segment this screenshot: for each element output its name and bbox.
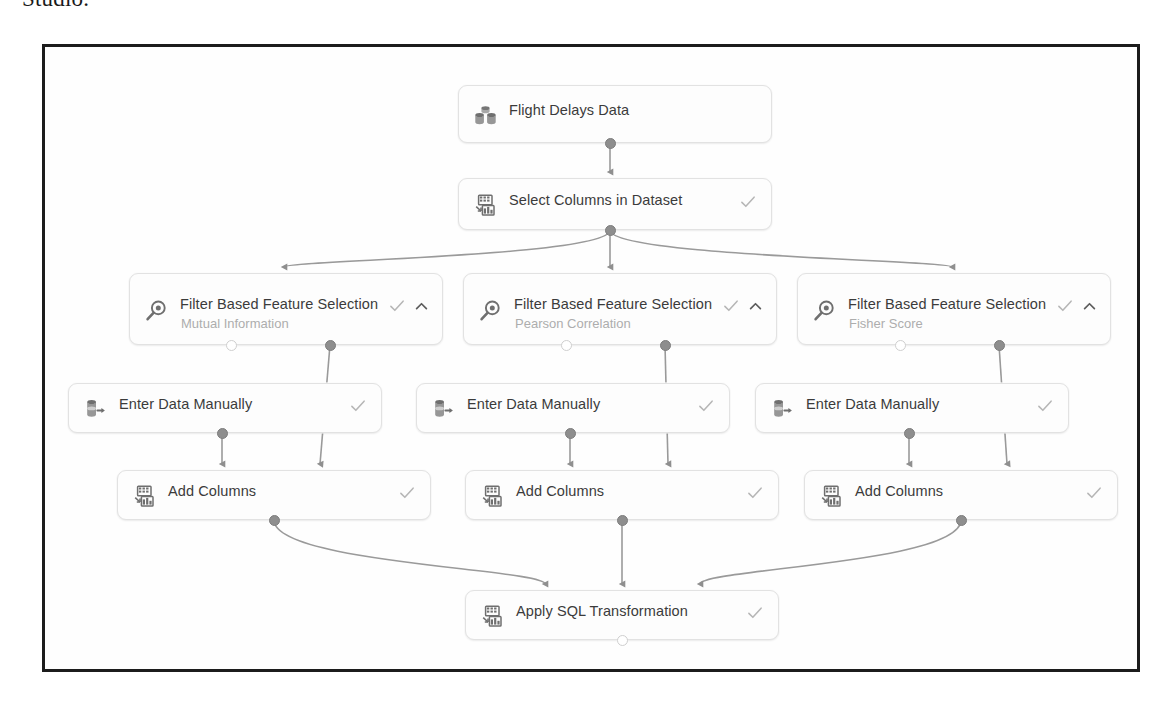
node-text-group: Add Columns	[516, 482, 738, 500]
check-icon	[746, 604, 764, 622]
port-filter-3-output-right[interactable]	[994, 340, 1005, 351]
columns-grid-icon	[819, 483, 845, 509]
check-icon	[722, 297, 740, 315]
node-enter-data-manually-3[interactable]: Enter Data Manually	[755, 383, 1069, 433]
node-content: Filter Based Feature SelectionMutual Inf…	[130, 286, 442, 332]
node-text-group: Filter Based Feature SelectionMutual Inf…	[180, 295, 380, 332]
magnifier-filter-icon	[478, 298, 504, 324]
node-text-group: Add Columns	[855, 482, 1077, 500]
node-title: Add Columns	[516, 482, 738, 500]
node-content: Enter Data Manually	[69, 395, 381, 422]
check-icon	[739, 193, 757, 211]
caption-text: Studio.	[22, 0, 89, 12]
node-content: Select Columns in Dataset	[459, 191, 771, 218]
check-icon	[1085, 484, 1103, 502]
node-title: Filter Based Feature Selection	[514, 295, 714, 313]
node-text-group: Filter Based Feature SelectionPearson Co…	[514, 295, 714, 332]
node-status-group	[398, 482, 416, 502]
node-text-group: Enter Data Manually	[119, 395, 341, 413]
chevron-up-icon[interactable]	[749, 300, 762, 313]
port-filter-2-output-left[interactable]	[561, 340, 572, 351]
node-status-group	[722, 295, 762, 315]
port-add-columns-3-output[interactable]	[956, 515, 967, 526]
node-title: Enter Data Manually	[119, 395, 341, 413]
port-enter-data-2-output[interactable]	[565, 428, 576, 439]
data-entry-cylinder-arrow-icon	[770, 396, 796, 422]
node-content: Enter Data Manually	[417, 395, 729, 422]
columns-grid-icon	[480, 483, 506, 509]
port-add-columns-2-output[interactable]	[617, 515, 628, 526]
check-icon	[388, 297, 406, 315]
port-filter-1-output-left[interactable]	[226, 340, 237, 351]
chevron-up-icon[interactable]	[1083, 300, 1096, 313]
node-text-group: Enter Data Manually	[467, 395, 689, 413]
node-flight-delays-data[interactable]: Flight Delays Data	[458, 85, 772, 143]
columns-grid-icon	[480, 603, 506, 629]
data-entry-cylinder-arrow-icon	[431, 396, 457, 422]
dataset-cylinders-icon	[473, 102, 499, 128]
port-enter-data-1-output[interactable]	[217, 428, 228, 439]
node-enter-data-manually-1[interactable]: Enter Data Manually	[68, 383, 382, 433]
node-enter-data-manually-2[interactable]: Enter Data Manually	[416, 383, 730, 433]
node-status-group	[697, 395, 715, 415]
magnifier-filter-icon	[812, 298, 838, 324]
node-select-columns-in-dataset[interactable]: Select Columns in Dataset	[458, 178, 772, 230]
node-title: Enter Data Manually	[467, 395, 689, 413]
node-title: Add Columns	[855, 482, 1077, 500]
port-enter-data-3-output[interactable]	[904, 428, 915, 439]
port-filter-1-output-right[interactable]	[325, 340, 336, 351]
port-filter-2-output-right[interactable]	[660, 340, 671, 351]
check-icon	[398, 484, 416, 502]
node-content: Add Columns	[118, 482, 430, 509]
node-content: Enter Data Manually	[756, 395, 1068, 422]
node-status-group	[349, 395, 367, 415]
check-icon	[1036, 397, 1054, 415]
node-status-group	[1085, 482, 1103, 502]
node-status-group	[1056, 295, 1096, 315]
node-text-group: Add Columns	[168, 482, 390, 500]
node-content: Add Columns	[805, 482, 1117, 509]
node-content: Filter Based Feature SelectionFisher Sco…	[798, 286, 1110, 332]
node-status-group	[388, 295, 428, 315]
node-add-columns-3[interactable]: Add Columns	[804, 470, 1118, 520]
node-subtitle: Pearson Correlation	[515, 315, 714, 332]
port-flight-delays-data-output[interactable]	[605, 138, 616, 149]
columns-grid-icon	[132, 483, 158, 509]
node-subtitle: Fisher Score	[849, 315, 1048, 332]
node-filter-based-feature-selection-mutual-information[interactable]: Filter Based Feature SelectionMutual Inf…	[129, 273, 443, 345]
node-text-group: Enter Data Manually	[806, 395, 1028, 413]
node-add-columns-2[interactable]: Add Columns	[465, 470, 779, 520]
node-title: Filter Based Feature Selection	[848, 295, 1048, 313]
check-icon	[349, 397, 367, 415]
chevron-up-icon[interactable]	[415, 300, 428, 313]
node-status-group	[739, 191, 757, 211]
node-add-columns-1[interactable]: Add Columns	[117, 470, 431, 520]
port-apply-sql-output[interactable]	[617, 635, 628, 646]
check-icon	[697, 397, 715, 415]
port-select-columns-output[interactable]	[605, 225, 616, 236]
node-title: Filter Based Feature Selection	[180, 295, 380, 313]
data-entry-cylinder-arrow-icon	[83, 396, 109, 422]
node-status-group	[746, 482, 764, 502]
node-filter-based-feature-selection-pearson-correlation[interactable]: Filter Based Feature SelectionPearson Co…	[463, 273, 777, 345]
columns-grid-icon	[473, 192, 499, 218]
node-text-group: Select Columns in Dataset	[509, 191, 731, 209]
node-title: Enter Data Manually	[806, 395, 1028, 413]
node-title: Select Columns in Dataset	[509, 191, 731, 209]
node-title: Apply SQL Transformation	[516, 602, 738, 620]
node-status-group	[746, 602, 764, 622]
node-title: Add Columns	[168, 482, 390, 500]
port-filter-3-output-left[interactable]	[895, 340, 906, 351]
node-subtitle: Mutual Information	[181, 315, 380, 332]
port-add-columns-1-output[interactable]	[269, 515, 280, 526]
check-icon	[746, 484, 764, 502]
node-text-group: Filter Based Feature SelectionFisher Sco…	[848, 295, 1048, 332]
node-content: Flight Delays Data	[459, 101, 771, 128]
node-apply-sql-transformation[interactable]: Apply SQL Transformation	[465, 590, 779, 640]
node-text-group: Apply SQL Transformation	[516, 602, 738, 620]
node-content: Add Columns	[466, 482, 778, 509]
node-filter-based-feature-selection-fisher-score[interactable]: Filter Based Feature SelectionFisher Sco…	[797, 273, 1111, 345]
magnifier-filter-icon	[144, 298, 170, 324]
node-text-group: Flight Delays Data	[509, 101, 749, 119]
node-title: Flight Delays Data	[509, 101, 749, 119]
